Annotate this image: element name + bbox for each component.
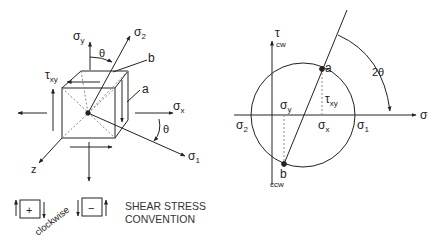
theta-arc-right <box>154 119 160 141</box>
cube-dashed-planes <box>62 71 128 138</box>
clockwise-label: clockwise <box>32 204 71 238</box>
z-axis-label: z <box>31 163 37 175</box>
stress-diagram: σy θ σ2 b a τxy σx θ σ1 z + − clockwise … <box>0 0 431 245</box>
point-a-label: a <box>142 82 149 96</box>
cube-top-face <box>62 71 128 88</box>
point-a <box>320 67 325 72</box>
tau-cw-label: cw <box>276 40 286 49</box>
sigma-y-label: σy <box>73 29 84 45</box>
leader-a <box>127 90 140 102</box>
z-axis-arrow <box>39 138 62 163</box>
sigma-1-arrow <box>88 113 185 156</box>
mohr-sigma-y-label: σy <box>280 98 291 114</box>
point-b-label: b <box>148 51 155 65</box>
element-labels: σy θ σ2 b a τxy σx θ σ1 z <box>31 25 200 175</box>
leader-b <box>113 60 147 72</box>
sigma-2-label: σ2 <box>134 25 146 41</box>
sigma-2-arrow <box>88 36 130 113</box>
mohr-labels: τ cw ccw σ a b 2θ τxy σy σx σ2 σ1 <box>236 26 428 189</box>
mohr-sigma-2-label: σ2 <box>236 118 248 134</box>
caption-line1: SHEAR STRESS <box>125 200 206 212</box>
diameter-line <box>284 10 347 164</box>
sigma-1-label: σ1 <box>188 149 200 165</box>
convention-minus-sign: − <box>88 202 94 214</box>
tau-axis-label: τ <box>275 26 280 40</box>
theta-top-label: θ <box>99 47 105 59</box>
convention-plus-sign: + <box>26 204 32 216</box>
mohr-point-a-label: a <box>325 61 332 75</box>
theta-right-label: θ <box>163 123 169 135</box>
sigma-axis-label: σ <box>420 108 428 122</box>
mohr-point-b-label: b <box>280 167 287 181</box>
point-b <box>282 162 287 167</box>
tau-xy-label: τxy <box>45 68 58 84</box>
sigma-x-label: σx <box>173 99 184 115</box>
mohr-sigma-1-label: σ1 <box>357 118 369 134</box>
two-theta-label: 2θ <box>372 66 384 78</box>
mohr-tau-xy-label: τxy <box>325 92 338 108</box>
caption-line2: CONVENTION <box>125 213 195 225</box>
ccw-label: ccw <box>270 180 284 189</box>
mohr-sigma-x-label: σx <box>318 118 329 134</box>
center-point <box>86 111 90 115</box>
